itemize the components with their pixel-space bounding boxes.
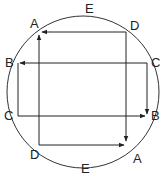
label-B-left: B (5, 55, 14, 70)
label-C-left: C (4, 108, 13, 123)
circle-path-diagram: EADBCCBDAE (0, 0, 166, 177)
label-E-top: E (85, 1, 94, 16)
labels-group: EADBCCBDAE (4, 1, 160, 176)
label-A-bottom: A (133, 151, 142, 166)
label-A-top: A (30, 16, 39, 31)
label-E-bottom: E (81, 161, 90, 176)
label-B-right: B (151, 108, 160, 123)
label-D-top: D (130, 18, 139, 33)
edges-group (18, 32, 147, 145)
label-D-bottom: D (30, 147, 39, 162)
label-C-right: C (151, 55, 160, 70)
